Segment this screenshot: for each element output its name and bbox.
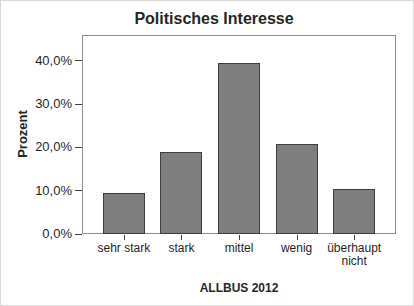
y-tick <box>75 104 82 105</box>
bar-stark <box>160 152 202 234</box>
y-tick-label: 10,0% <box>1 184 72 198</box>
y-tick-label: 40,0% <box>1 54 72 68</box>
x-tick-label: überhaupt nicht <box>318 242 390 268</box>
y-tick <box>75 147 82 148</box>
y-tick-label: 0,0% <box>1 227 72 241</box>
chart-canvas: Politisches Interesse Prozent ALLBUS 201… <box>0 0 414 306</box>
x-tick <box>239 235 240 240</box>
bar-mittel <box>218 63 260 234</box>
x-tick <box>124 235 125 240</box>
bar--berhaupt-nicht <box>333 189 375 234</box>
chart-title: Politisches Interesse <box>15 10 413 28</box>
y-tick <box>75 60 82 61</box>
y-tick <box>75 234 82 235</box>
x-tick <box>354 235 355 240</box>
y-tick <box>75 190 82 191</box>
bar-sehr-stark <box>103 193 145 234</box>
bar-wenig <box>276 144 318 234</box>
x-axis-title: ALLBUS 2012 <box>82 281 396 295</box>
x-tick <box>181 235 182 240</box>
y-tick-label: 30,0% <box>1 97 72 111</box>
y-tick-label: 20,0% <box>1 140 72 154</box>
x-tick <box>297 235 298 240</box>
